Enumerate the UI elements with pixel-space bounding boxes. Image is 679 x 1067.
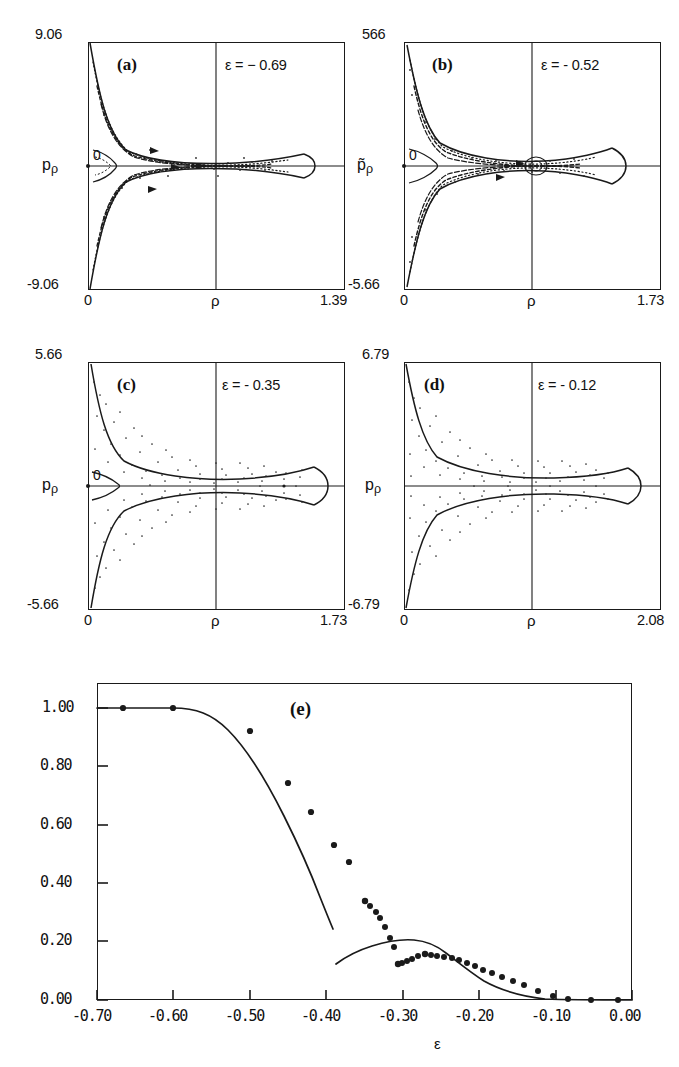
- panel-a-xaxis-label: ρ: [211, 293, 220, 308]
- figure-root: (a) ε = − 0.69 0 9.06 -9.06 0 1.39 ρ pρ: [0, 0, 679, 1067]
- panel-d-yaxis-label: pρ: [365, 477, 381, 496]
- panel-a-yaxis-label-base: p: [42, 156, 51, 173]
- panel-e-xtick-3: -0.50: [225, 1009, 264, 1024]
- panel-b-tag: (b): [432, 55, 453, 75]
- panel-d-ytick-bottom: -6.79: [348, 597, 380, 612]
- panel-d-xaxis-label: ρ: [527, 613, 536, 628]
- panel-d-xtick-left: 0: [400, 613, 408, 628]
- panel-b: (b) ε = - 0.52 0 566 -5.66 0 1.73 ρ p̃ρ: [340, 0, 679, 320]
- panel-e-xtick-4: -0.40: [301, 1009, 340, 1024]
- panel-b-ytick-top: 566: [362, 27, 385, 42]
- panel-e: 1.00 0.80 0.60 0.40 0.20 0.00 -0.70 -0.6…: [0, 640, 679, 1067]
- panel-a-origin-label: 0: [93, 147, 101, 163]
- panel-e-ytick-3: 0.60: [40, 817, 71, 832]
- panel-c-tag: (c): [117, 375, 136, 395]
- panel-b-ytick-bottom: -5.66: [348, 277, 380, 292]
- panel-d-epsilon-label: ε = - 0.12: [538, 377, 596, 393]
- panel-a-ytick-bottom: -9.06: [27, 277, 59, 292]
- panel-a: (a) ε = − 0.69 0 9.06 -9.06 0 1.39 ρ pρ: [0, 0, 350, 320]
- panel-b-epsilon-label: ε = - 0.52: [541, 57, 599, 73]
- panel-c-yaxis-label-base: p: [42, 476, 51, 493]
- panel-c-origin-label: 0: [93, 467, 101, 483]
- panel-c-xtick-left: 0: [84, 613, 92, 628]
- panel-c-ytick-top: 5.66: [35, 347, 62, 362]
- panel-a-yaxis-label: pρ: [42, 157, 58, 176]
- panel-e-xtick-7: -0.10: [531, 1009, 570, 1024]
- panel-b-yaxis-label-sub: ρ: [366, 162, 373, 176]
- panel-e-xtick-2: -0.60: [148, 1009, 187, 1024]
- panel-a-yaxis-label-sub: ρ: [51, 162, 58, 176]
- panel-d-yaxis-label-base: p: [365, 476, 374, 493]
- panel-e-ytick-4: 0.40: [40, 875, 71, 890]
- panel-e-ytick-6: 0.00: [40, 992, 71, 1007]
- panel-c: (c) ε = - 0.35 0 5.66 -5.66 0 1.73 ρ pρ: [0, 320, 350, 640]
- panel-b-yaxis-label-base: p̃: [357, 156, 366, 173]
- panel-b-xtick-left: 0: [400, 293, 408, 308]
- panel-d-phase-portrait: [340, 320, 679, 640]
- panel-c-ytick-bottom: -5.66: [27, 597, 59, 612]
- panel-d-ytick-top: 6.79: [362, 347, 389, 362]
- panel-d-tag: (d): [424, 375, 445, 395]
- panel-e-xtick-1: -0.70: [72, 1009, 111, 1024]
- panel-a-ytick-top: 9.06: [35, 27, 62, 42]
- panel-d: (d) ε = - 0.12 6.79 -6.79 0 2.08 ρ pρ: [340, 320, 679, 640]
- panel-b-yaxis-label: p̃ρ: [357, 157, 373, 176]
- panel-c-yaxis-label: pρ: [42, 477, 58, 496]
- panel-b-xtick-right: 1.73: [637, 293, 664, 308]
- panel-e-xtick-6: -0.20: [454, 1009, 493, 1024]
- panel-e-xaxis-title: ε: [434, 1035, 441, 1052]
- panel-e-ytick-1: 1.00: [42, 700, 73, 715]
- panel-e-chart: [0, 640, 679, 1067]
- panel-e-ytick-5: 0.20: [40, 933, 71, 948]
- panel-c-yaxis-label-sub: ρ: [51, 482, 58, 496]
- panel-a-epsilon-label: ε = − 0.69: [225, 57, 287, 73]
- panel-e-xtick-5: -0.30: [378, 1009, 417, 1024]
- panel-e-tag: (e): [290, 698, 311, 720]
- panel-d-yaxis-label-sub: ρ: [374, 482, 381, 496]
- panel-d-xtick-right: 2.08: [637, 613, 664, 628]
- panel-e-ytick-2: 0.80: [40, 758, 71, 773]
- panel-c-epsilon-label: ε = - 0.35: [222, 377, 280, 393]
- panel-a-tag: (a): [117, 55, 137, 75]
- panel-a-xtick-left: 0: [84, 293, 92, 308]
- panel-b-xaxis-label: ρ: [527, 293, 536, 308]
- panel-b-origin-label: 0: [409, 147, 417, 163]
- panel-e-xtick-8: 0.00: [609, 1009, 640, 1024]
- panel-c-xaxis-label: ρ: [211, 613, 220, 628]
- panel-b-phase-portrait: [340, 0, 679, 320]
